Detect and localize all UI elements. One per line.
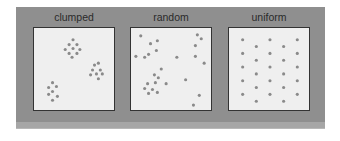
individual-dot [99,68,102,71]
individual-dot [64,48,67,51]
individual-dot [198,94,201,97]
individual-dot [47,93,50,96]
individual-dot [282,100,285,103]
individual-dot [282,86,285,89]
individual-dot [255,86,258,89]
panel-label-clumped: clumped [29,11,119,23]
individual-dot [241,52,244,55]
individual-dot [268,93,271,96]
individual-dot [296,93,299,96]
individual-dot [241,79,244,82]
individual-dot [71,47,74,50]
panel-clumped [33,27,115,111]
individual-dot [200,37,203,40]
individual-dot [51,99,54,102]
individual-dot [71,38,74,41]
individual-dot [268,52,271,55]
individual-dot [282,45,285,48]
individual-dot [95,72,98,75]
individual-dot [255,45,258,48]
individual-dot [196,33,199,36]
individual-dot [51,81,54,84]
individual-dot [101,72,104,75]
individual-dot [75,52,78,55]
individual-dot [296,38,299,41]
individual-dot [268,38,271,41]
individual-dot [154,81,157,84]
individual-dot [153,73,156,76]
dots-clumped [34,28,114,110]
panel-uniform [228,27,310,111]
individual-dot [296,52,299,55]
individual-dot [160,67,163,70]
individual-dot [56,95,59,98]
individual-dot [78,48,81,51]
individual-dot [155,49,158,52]
individual-dot [268,65,271,68]
individual-dot [134,55,137,58]
individual-dot [91,68,94,71]
individual-dot [156,91,159,94]
individual-dot [70,56,73,59]
individual-dot [255,100,258,103]
dots-uniform [229,28,309,110]
panel-random [130,27,212,111]
individual-dot [143,56,146,59]
individual-dot [255,59,258,62]
individual-dot [282,59,285,62]
individual-dot [203,62,206,65]
individual-dot [143,87,146,90]
individual-dot [89,73,92,76]
individual-dot [268,79,271,82]
individual-dot [194,55,197,58]
individual-dot [147,92,150,95]
individual-dot [157,76,160,79]
individual-dot [97,77,100,80]
individual-dot [296,79,299,82]
individual-dot [184,78,187,81]
individual-dot [282,72,285,75]
individual-dot [175,56,178,59]
individual-dot [51,90,54,93]
individual-dot [149,42,152,45]
individual-dot [68,52,71,55]
individual-dot [68,43,71,46]
individual-dot [93,64,96,67]
individual-dot [192,104,195,107]
individual-dot [97,62,100,65]
individual-dot [241,38,244,41]
dots-random [131,28,211,110]
individual-dot [146,82,149,85]
individual-dot [194,44,197,47]
panel-label-uniform: uniform [224,11,314,23]
individual-dot [47,86,50,89]
individual-dot [255,72,258,75]
individual-dot [55,85,58,88]
individual-dot [241,65,244,68]
frame-bottom-line [16,128,325,129]
individual-dot [139,34,142,37]
individual-dot [241,93,244,96]
panel-label-random: random [126,11,216,23]
individual-dot [75,43,78,46]
individual-dot [147,53,150,56]
individual-dot [165,82,168,85]
individual-dot [151,88,154,91]
individual-dot [156,39,159,42]
individual-dot [296,65,299,68]
